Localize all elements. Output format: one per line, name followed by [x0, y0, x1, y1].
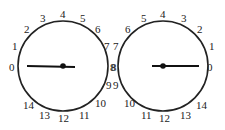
dial-label: 14	[196, 99, 208, 111]
dial-label: 10	[124, 97, 136, 109]
left-dial-hand	[27, 66, 75, 67]
right-dial-pivot	[160, 63, 166, 69]
dial-label: 0	[9, 61, 15, 73]
dial-label: 8	[110, 61, 116, 73]
dial-label: 7	[113, 40, 119, 52]
dial-label: 9	[106, 79, 112, 91]
dial-label: 10	[95, 97, 107, 109]
dial-diagram: 01234567891011121314 0123456789101112131…	[0, 0, 225, 130]
dial-label: 14	[23, 99, 35, 111]
left-dial-pivot	[60, 63, 66, 69]
dial-label: 13	[39, 109, 51, 121]
dial-label: 11	[79, 109, 90, 121]
right-dial: 01234567891011121314	[110, 8, 215, 124]
dial-label: 4	[160, 8, 166, 20]
dial-label: 6	[125, 23, 131, 35]
dial-label: 0	[207, 61, 213, 73]
dial-label: 13	[180, 109, 192, 121]
left-dial: 01234567891011121314	[9, 8, 117, 124]
dial-label: 11	[141, 109, 152, 121]
dial-label: 2	[24, 23, 30, 35]
dial-label: 9	[113, 79, 119, 91]
dial-label: 5	[141, 12, 147, 24]
dial-label: 12	[58, 112, 69, 124]
dial-label: 6	[95, 23, 101, 35]
dial-label: 12	[159, 112, 170, 124]
dial-label: 3	[40, 12, 46, 24]
dial-label: 5	[80, 12, 86, 24]
dial-label: 1	[12, 40, 18, 52]
dial-label: 1	[209, 40, 215, 52]
dial-label: 7	[104, 40, 110, 52]
dial-label: 4	[60, 8, 66, 20]
dial-label: 2	[197, 23, 203, 35]
dial-label: 3	[181, 12, 187, 24]
